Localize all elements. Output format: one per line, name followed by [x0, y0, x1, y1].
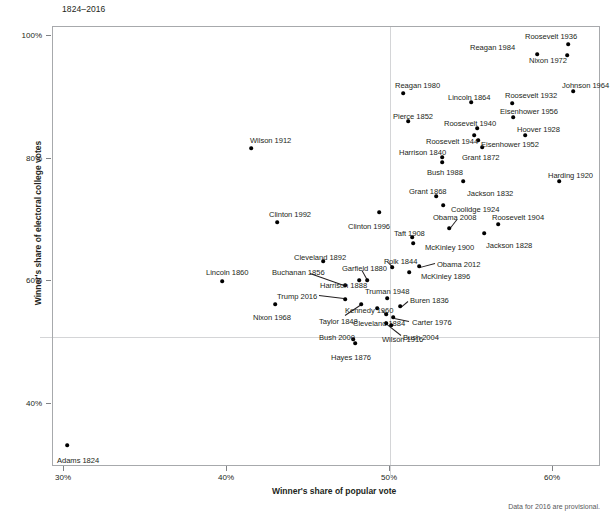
data-point-label: Roosevelt 1932 [505, 91, 557, 100]
label-leader-line [420, 263, 435, 268]
data-point-label: Pierce 1852 [393, 112, 433, 121]
data-point-label: Roosevelt 1940 [444, 119, 496, 128]
data-point-label: Grant 1868 [409, 187, 447, 196]
xtick-label-40: 40% [206, 473, 246, 482]
data-point-label: Trump 2016 [277, 292, 317, 301]
data-point-label: Reagan 1980 [395, 81, 440, 90]
data-point-label: Buren 1836 [410, 296, 449, 305]
data-point[interactable] [566, 42, 570, 46]
data-point[interactable] [441, 203, 445, 207]
data-point[interactable] [496, 222, 500, 226]
data-point-label: Roosevelt 1944 [426, 137, 478, 146]
data-point-label: Hayes 1876 [331, 353, 371, 362]
data-point-label: Grant 1872 [462, 153, 500, 162]
data-point-label: Carter 1976 [412, 318, 452, 327]
data-point-label: Harding 1920 [548, 171, 593, 180]
footnote: Data for 2016 are provisional. [508, 503, 600, 510]
data-point-label: McKinley 1896 [421, 272, 470, 281]
xtick-label-30: 30% [43, 473, 83, 482]
data-point[interactable] [472, 133, 476, 137]
data-point[interactable] [447, 226, 451, 230]
xtick-mark-30 [63, 466, 64, 471]
ytick-mark-100 [46, 35, 51, 36]
election-scatter-figure: 1824–2016 100% 80% 60% 40% 30% 40% 50% 6… [0, 0, 616, 519]
label-leader-line [402, 301, 409, 307]
xtick-mark-40 [226, 466, 227, 471]
data-point[interactable] [411, 241, 415, 245]
data-point[interactable] [65, 443, 69, 447]
data-point-label: Taylor 1848 [319, 317, 358, 326]
data-point-label: Hoover 1928 [517, 125, 560, 134]
label-leader-line [319, 295, 344, 299]
data-point[interactable] [384, 321, 388, 325]
data-point-label: Bush 2004 [403, 333, 439, 342]
data-point[interactable] [482, 231, 486, 235]
data-point-label: Lincoln 1864 [448, 93, 490, 102]
data-point[interactable] [440, 160, 444, 164]
data-point-label: Eisenhower 1956 [500, 107, 558, 116]
xtick-label-50: 50% [369, 473, 409, 482]
data-point[interactable] [273, 302, 277, 306]
data-point-label: Bush 1988 [427, 168, 463, 177]
data-point-label: Truman 1948 [365, 287, 409, 296]
data-point[interactable] [417, 264, 421, 268]
data-point-label: Polk 1844 [384, 257, 417, 266]
data-point-label: Clinton 1992 [269, 210, 311, 219]
data-point-label: Obama 2012 [437, 260, 480, 269]
data-point-label: Reagan 1984 [470, 43, 515, 52]
data-point-label: Nixon 1968 [253, 313, 291, 322]
data-point-label: Eisenhower 1952 [481, 140, 539, 149]
data-point-label: Wilson 1912 [250, 136, 291, 145]
chart-title: 1824–2016 [62, 4, 105, 14]
data-point-label: Buchanan 1856 [272, 268, 325, 277]
data-point[interactable] [398, 304, 402, 308]
ytick-mark-40 [46, 403, 51, 404]
reference-line-50-vertical [390, 27, 391, 465]
data-point[interactable] [391, 315, 395, 319]
data-point[interactable] [343, 297, 347, 301]
data-point[interactable] [220, 279, 224, 283]
data-point-label: McKinley 1900 [425, 243, 474, 252]
data-point-label: Johnson 1964 [562, 81, 609, 90]
data-point[interactable] [401, 91, 405, 95]
data-point[interactable] [461, 179, 465, 183]
y-axis-label-wrap: Winner's share of electoral college vote… [0, 0, 20, 519]
xtick-label-60: 60% [532, 473, 572, 482]
data-point-label: Bush 2000 [319, 333, 355, 342]
y-axis-label: Winner's share of electoral college vote… [33, 103, 43, 343]
data-point-label: Clinton 1996 [348, 222, 390, 231]
reference-line-50-vertical-ext [390, 466, 391, 478]
ytick-mark-80 [46, 158, 51, 159]
data-point-label: Kennedy 1960 [345, 306, 393, 315]
x-axis-label: Winner's share of popular vote [272, 486, 396, 496]
data-point[interactable] [385, 296, 389, 300]
data-point-label: Obama 2008 [433, 213, 476, 222]
data-point-label: Nixon 1972 [529, 56, 567, 65]
data-point[interactable] [510, 101, 514, 105]
data-point-label: Taft 1908 [394, 229, 425, 238]
data-point-label: Garfield 1880 [342, 264, 387, 273]
data-point[interactable] [249, 146, 253, 150]
plot-area: Adams 1824Jackson 1828Jackson 1832Buren … [52, 26, 600, 466]
ytick-mark-60 [46, 280, 51, 281]
data-point[interactable] [535, 52, 539, 56]
data-point[interactable] [377, 210, 381, 214]
data-point[interactable] [275, 220, 279, 224]
data-point-label: Jackson 1832 [467, 189, 513, 198]
data-point-label: Cleveland 1884 [353, 319, 405, 328]
data-point-label: Adams 1824 [57, 456, 99, 465]
data-point-label: Jackson 1828 [486, 241, 532, 250]
data-point-label: Roosevelt 1936 [525, 32, 577, 41]
data-point-label: Harrison 1888 [320, 281, 367, 290]
data-point-label: Lincoln 1860 [206, 268, 248, 277]
data-point-label: Roosevelt 1904 [492, 213, 544, 222]
data-point-label: Cleveland 1892 [294, 253, 346, 262]
data-point-label: Harrison 1840 [399, 148, 446, 157]
xtick-mark-60 [552, 466, 553, 471]
data-point[interactable] [407, 270, 411, 274]
